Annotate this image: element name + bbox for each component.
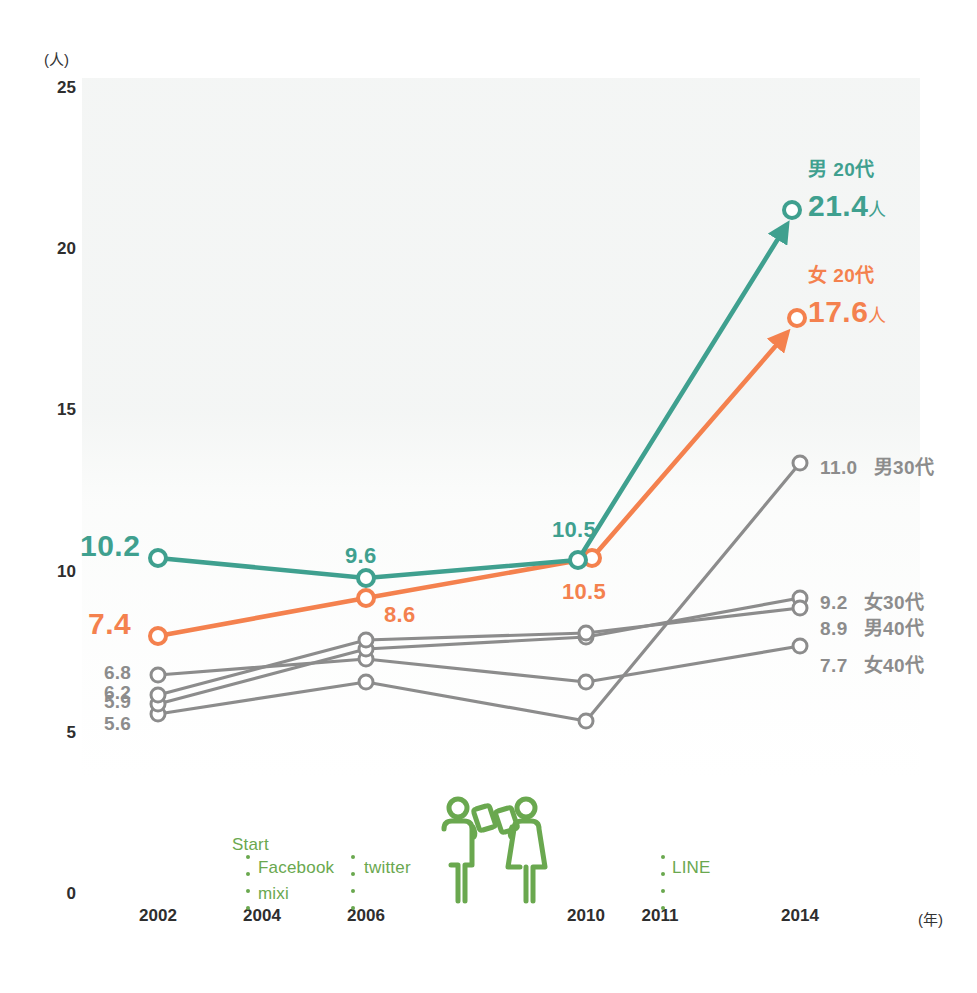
people-with-phones-icon bbox=[432, 796, 562, 908]
point-label-orange-2010: 10.5 bbox=[562, 580, 606, 603]
series-label-f30: 9.2女30代 bbox=[820, 587, 924, 614]
woman-head-icon bbox=[517, 799, 535, 817]
man-body-icon bbox=[444, 821, 472, 901]
series-line-f30 bbox=[158, 598, 800, 704]
series-line-m20 bbox=[158, 226, 786, 578]
point-label-gray-2002-68: 6.8 bbox=[104, 663, 131, 683]
point-label-teal-2010: 10.5 bbox=[552, 518, 596, 541]
series-label-m40: 8.9男40代 bbox=[820, 613, 924, 640]
point-label-teal-2002: 10.2 bbox=[80, 530, 140, 562]
annotation-mixi: mixi bbox=[258, 884, 289, 904]
series-label-f40: 7.7女40代 bbox=[820, 650, 924, 677]
series-label-m20-name: 男 20代 bbox=[808, 160, 875, 180]
series-label-m30: 11.0男30代 bbox=[820, 452, 934, 479]
series-label-f20-value: 17.6人 bbox=[808, 296, 886, 328]
chart-container: (人) (年) 25 20 15 10 5 0 2002 2004 2006 2… bbox=[0, 0, 977, 993]
man-arm-icon bbox=[473, 827, 475, 837]
series-markers-f20 bbox=[150, 310, 805, 644]
annotation-dots-2011 bbox=[661, 855, 665, 923]
annotation-start: Start bbox=[232, 835, 269, 855]
series-line-f40 bbox=[158, 646, 800, 682]
series-line-m40 bbox=[158, 608, 800, 695]
series-label-m20-value: 21.4人 bbox=[808, 190, 886, 222]
woman-arm-icon bbox=[510, 827, 512, 837]
annotation-dots-2004 bbox=[246, 855, 250, 923]
annotation-line: LINE bbox=[672, 858, 711, 878]
point-label-orange-2002: 7.4 bbox=[88, 608, 131, 640]
point-label-orange-2006: 8.6 bbox=[384, 603, 415, 626]
man-phone-icon bbox=[474, 806, 496, 831]
series-markers-gray bbox=[151, 456, 807, 728]
annotation-twitter: twitter bbox=[364, 858, 411, 878]
woman-phone-icon bbox=[496, 808, 518, 833]
annotation-dots-2006 bbox=[351, 855, 355, 923]
annotation-facebook: Facebook bbox=[258, 858, 334, 878]
point-label-gray-2002-56: 5.6 bbox=[104, 714, 131, 734]
man-head-icon bbox=[449, 799, 467, 817]
series-label-f20-name: 女 20代 bbox=[808, 266, 875, 286]
point-label-teal-2006: 9.6 bbox=[345, 544, 376, 567]
series-line-m30 bbox=[158, 463, 800, 721]
point-label-gray-2002-59: 5.9 bbox=[104, 692, 131, 712]
series-markers-m20 bbox=[150, 202, 800, 586]
